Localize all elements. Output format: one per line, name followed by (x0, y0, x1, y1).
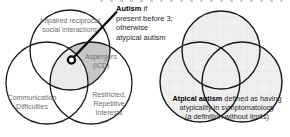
autism-annotation: Autism if present before 3; otherwise at… (116, 4, 196, 42)
label-aspergers-icd: Aspergers (ICD) (72, 52, 130, 70)
atypical-autism-caption-lead: Atpical autism (172, 94, 222, 103)
label-impaired-reciprocal-social-interactions: Impaired reciprocal social interactions (18, 16, 122, 34)
atypical-autism-caption: Atpical autism defined as having atypica… (156, 94, 290, 122)
label-restricted-repetitive-interests: Restricted, Repetitive Interests (80, 90, 138, 117)
autism-annotation-lead: Autism (116, 4, 141, 13)
figure-canvas: Impaired reciprocal social interactions … (0, 0, 290, 137)
label-communication-difficulties: Communication Difficulties (0, 93, 64, 111)
